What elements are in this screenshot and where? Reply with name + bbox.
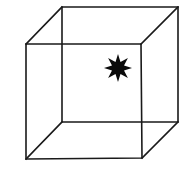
connecting-edges — [26, 7, 178, 159]
edge-bottom-left — [26, 122, 62, 159]
edge-top-left — [26, 7, 62, 44]
edge-bottom-right — [142, 122, 178, 158]
star-icon — [104, 54, 132, 82]
cube-diagram — [0, 0, 196, 176]
edge-top-right — [141, 7, 178, 44]
